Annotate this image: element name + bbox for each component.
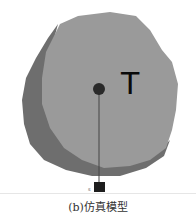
simulation-model-figure: s <box>0 0 196 213</box>
target-front-body <box>42 12 178 168</box>
sensor-square <box>94 182 105 192</box>
sensor-label: s <box>88 186 91 192</box>
figure-caption: (b)仿真模型 <box>0 198 196 213</box>
target-center-dot <box>93 83 105 95</box>
target-label: T <box>121 69 139 99</box>
divider <box>0 193 196 194</box>
